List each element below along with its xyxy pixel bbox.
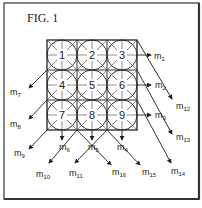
label-m8: m8 bbox=[10, 119, 22, 130]
label-m7: m7 bbox=[10, 87, 22, 98]
label-m9: m9 bbox=[14, 148, 26, 159]
label-m10: m10 bbox=[36, 169, 51, 180]
label-m1: m1 bbox=[154, 51, 166, 62]
label-m2: m2 bbox=[155, 80, 167, 91]
figure-frame bbox=[4, 3, 199, 199]
figure-diagram: FIG. 1 bbox=[0, 0, 202, 208]
label-m11: m11 bbox=[69, 168, 83, 179]
cell-6: 6 bbox=[119, 79, 125, 91]
label-m4: m4 bbox=[117, 142, 129, 153]
cell-4: 4 bbox=[59, 79, 65, 91]
cell-2: 2 bbox=[89, 49, 95, 61]
label-m12: m12 bbox=[176, 101, 191, 112]
label-m14: m14 bbox=[171, 166, 186, 177]
cell-9: 9 bbox=[119, 109, 125, 121]
label-m16: m16 bbox=[112, 167, 127, 178]
grid-3x3: 1 2 3 4 5 6 7 8 9 bbox=[47, 40, 137, 130]
cell-1: 1 bbox=[59, 49, 65, 61]
label-m5: m5 bbox=[88, 142, 100, 153]
cell-8: 8 bbox=[89, 109, 95, 121]
cell-7: 7 bbox=[59, 109, 65, 121]
cell-5: 5 bbox=[89, 79, 95, 91]
label-m3: m3 bbox=[155, 110, 167, 121]
label-m13: m13 bbox=[176, 132, 191, 143]
label-m6: m6 bbox=[59, 142, 71, 153]
cell-3: 3 bbox=[119, 49, 125, 61]
figure-title: FIG. 1 bbox=[27, 11, 58, 25]
label-m15: m15 bbox=[142, 167, 157, 178]
